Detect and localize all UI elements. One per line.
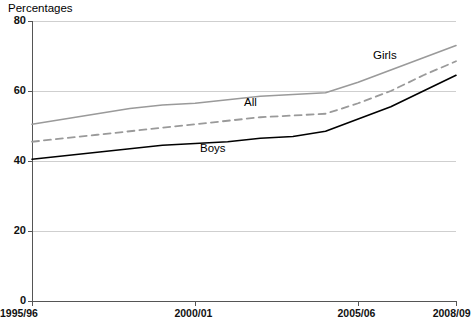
y-tick-label: 0 [0, 295, 26, 306]
y-tick-label: 60 [0, 85, 26, 96]
series-label-boys: Boys [200, 142, 226, 154]
x-tick-label: 2000/01 [174, 308, 212, 319]
y-tick-label: 40 [0, 155, 26, 166]
line-chart: Percentages 020406080 1995/962000/012005… [0, 0, 475, 325]
series-label-all: All [244, 96, 257, 108]
gridlines [32, 21, 456, 301]
x-tick-label: 2008/09 [433, 308, 471, 319]
series-line-boys [32, 75, 456, 159]
axis-ticks [28, 21, 456, 306]
x-tick-label: 2005/06 [338, 308, 376, 319]
series-label-girls: Girls [373, 49, 397, 61]
y-tick-label: 20 [0, 225, 26, 236]
plot-area [0, 0, 475, 325]
y-tick-label: 80 [0, 15, 26, 26]
x-tick-label: 1995/96 [0, 308, 38, 319]
